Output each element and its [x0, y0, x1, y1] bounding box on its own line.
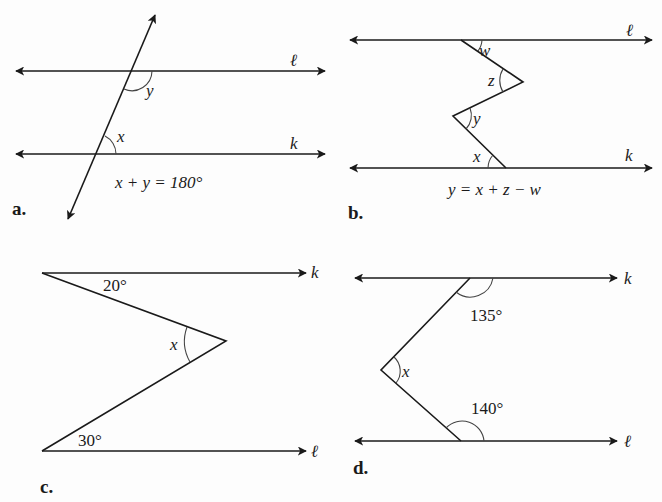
angle-x-label: x	[169, 335, 178, 354]
angle-x-arc	[185, 327, 190, 362]
equation: y = x + z − w	[446, 180, 542, 199]
panel-label: c.	[40, 476, 53, 497]
angle-z-label: z	[487, 71, 495, 90]
angle-z-arc	[500, 69, 503, 92]
angle-140-label: 140°	[471, 399, 503, 418]
angle-y-label: y	[144, 81, 154, 100]
angle-x-arc	[488, 155, 493, 168]
angle-20-label: 20°	[103, 276, 127, 295]
line-k-label: k	[624, 269, 632, 288]
angle-x-label: x	[401, 362, 410, 381]
angle-30-label: 30°	[78, 431, 102, 450]
angle-x-arc	[394, 357, 400, 383]
equation: x + y = 180°	[114, 173, 203, 192]
line-l-label: ℓ	[290, 51, 297, 70]
ray-k-label: k	[311, 263, 319, 282]
panel-a: y x ℓ k x + y = 180° a.	[12, 15, 325, 219]
line-l-label: ℓ	[626, 21, 633, 40]
angle-y-arc	[466, 108, 471, 129]
bent-path	[381, 278, 470, 441]
panel-label: d.	[353, 457, 368, 478]
angle-w-label: w	[479, 41, 491, 60]
line-k-label: k	[625, 146, 633, 165]
panel-d: 135° x 140° k ℓ d.	[353, 269, 632, 478]
panel-label: a.	[12, 198, 26, 219]
angle-y-label: y	[471, 109, 481, 128]
angle-140-arc	[446, 421, 484, 441]
diagram-canvas: y x ℓ k x + y = 180° a. w z y x ℓ k y = …	[0, 0, 662, 502]
panel-c: 20° x 30° k ℓ c.	[40, 263, 319, 497]
bent-path	[42, 273, 226, 451]
line-l-label: ℓ	[624, 432, 631, 451]
parallel-lines-figure: y x ℓ k x + y = 180° a. w z y x ℓ k y = …	[0, 0, 662, 502]
ray-l-label: ℓ	[311, 442, 318, 461]
panel-label: b.	[348, 202, 363, 223]
angle-x-arc	[105, 136, 116, 154]
line-k-label: k	[290, 134, 298, 153]
angle-x-label: x	[472, 147, 481, 166]
panel-b: w z y x ℓ k y = x + z − w b.	[348, 21, 652, 223]
angle-x-label: x	[116, 127, 125, 146]
angle-135-label: 135°	[470, 306, 502, 325]
